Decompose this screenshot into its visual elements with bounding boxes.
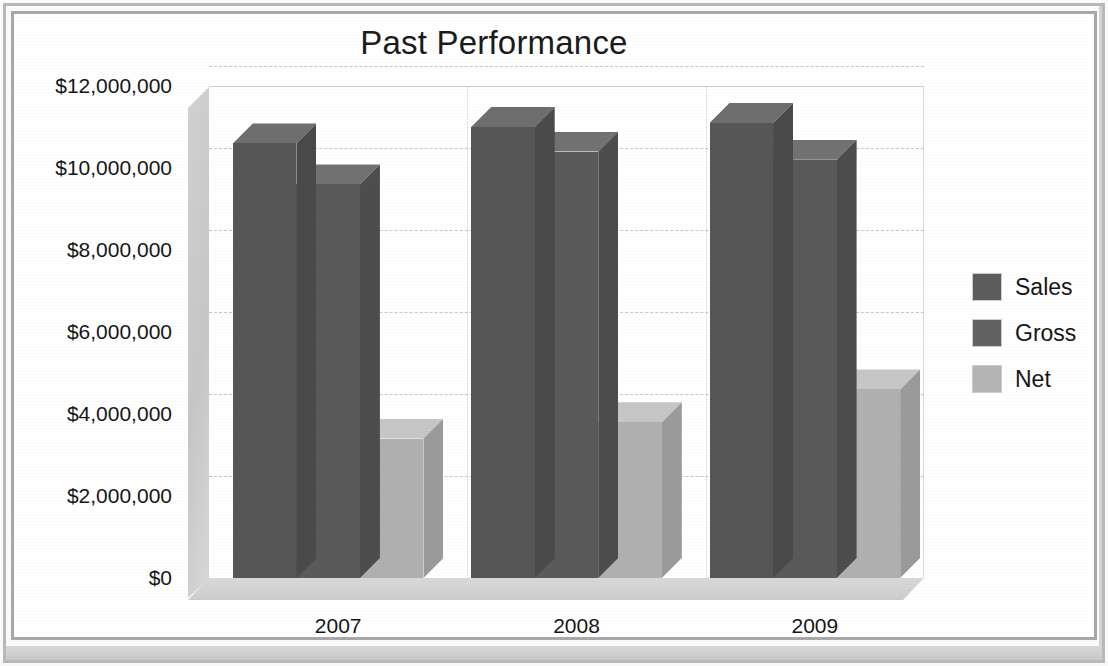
legend-swatch-icon	[972, 365, 1002, 393]
bar-side-face	[360, 164, 380, 578]
y-axis-tick-label: $2,000,000	[24, 484, 172, 508]
bar-sales-2008[interactable]	[471, 107, 555, 578]
legend-item-gross[interactable]: Gross	[972, 310, 1102, 356]
legend-item-net[interactable]: Net	[972, 356, 1102, 402]
chart-legend: SalesGrossNet	[972, 264, 1102, 402]
plot-area: 200720082009	[184, 84, 924, 624]
bar-side-face	[662, 402, 682, 578]
y-axis-tick-label: $0	[24, 566, 172, 590]
legend-swatch-icon	[972, 319, 1002, 347]
y-axis-tick-label: $4,000,000	[24, 402, 172, 426]
y-axis-tick-label: $8,000,000	[24, 238, 172, 262]
legend-item-sales[interactable]: Sales	[972, 264, 1102, 310]
plot-left-wall	[188, 86, 210, 598]
legend-item-label: Sales	[1015, 274, 1073, 301]
bar-side-face	[535, 107, 555, 578]
bar-side-face	[296, 123, 316, 578]
bar-sales-2007[interactable]	[233, 123, 317, 578]
scanned-page: Past Performance $0$2,000,000$4,000,000$…	[0, 0, 1108, 666]
bar-side-face	[423, 419, 443, 578]
bar-front-face	[471, 127, 535, 578]
x-axis-tick-label: 2009	[755, 614, 875, 638]
y-axis-tick-label: $12,000,000	[24, 74, 172, 98]
bar-sales-2009[interactable]	[710, 103, 794, 578]
grid-line	[209, 66, 924, 67]
category-divider-line	[706, 86, 707, 578]
x-axis-tick-label: 2008	[517, 614, 637, 638]
bar-side-face	[837, 140, 857, 578]
plot-floor	[188, 578, 924, 600]
y-axis-tick-labels: $0$2,000,000$4,000,000$6,000,000$8,000,0…	[14, 84, 184, 624]
y-axis-tick-label: $6,000,000	[24, 320, 172, 344]
y-axis-tick-label: $10,000,000	[24, 156, 172, 180]
legend-item-label: Net	[1015, 366, 1051, 393]
legend-item-label: Gross	[1015, 320, 1076, 347]
legend-swatch-icon	[972, 273, 1002, 301]
bar-chart: Past Performance $0$2,000,000$4,000,000$…	[14, 14, 1092, 628]
bar-front-face	[233, 143, 297, 578]
bar-front-face	[710, 123, 774, 578]
bar-side-face	[773, 103, 793, 578]
bar-side-face	[900, 369, 920, 578]
bar-side-face	[598, 132, 618, 578]
x-axis-tick-label: 2007	[278, 614, 398, 638]
category-divider-line	[467, 86, 468, 578]
chart-title: Past Performance	[14, 24, 974, 62]
